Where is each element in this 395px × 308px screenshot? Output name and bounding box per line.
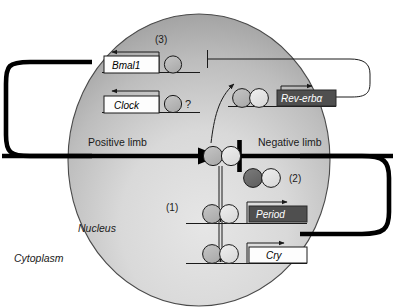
negative-limb-label: Negative limb [258,136,322,148]
positive-limb-label: Positive limb [88,136,147,148]
reverba-gene-label: Rev-erbα [281,93,323,104]
reverba-dimer-circle-right [250,89,269,108]
figure-canvas: Positive limb Negative limb Bmal1 (3) Cl… [0,0,395,308]
annotation-1-label: (1) [166,202,178,213]
percry-circle-dark [244,169,263,188]
circadian-clock-diagram: Positive limb Negative limb Bmal1 (3) Cl… [0,0,395,308]
unknown-question-mark: ? [185,98,191,110]
cry-gene-label: Cry [266,250,283,261]
bmal1-gene-label: Bmal1 [112,60,140,71]
period-dimer-circle-right [220,205,239,224]
cytoplasm-label: Cytoplasm [14,252,64,264]
clock-gene-label: Clock [114,100,140,111]
reverba-dimer-circle-left [233,89,252,108]
period-gene-label: Period [256,209,285,220]
central-dimer-circle-right [221,146,240,165]
annotation-3-label: (3) [155,34,167,45]
period-dimer-circle-left [203,205,222,224]
percry-circle-light [262,169,281,188]
nucleus-label: Nucleus [78,222,117,234]
bmal1-protein-circle [164,56,181,73]
cry-dimer-circle-left [203,245,222,264]
central-dimer-circle-left [203,146,222,165]
cry-dimer-circle-right [220,245,239,264]
clock-protein-circle [164,95,181,112]
annotation-2-label: (2) [289,173,301,184]
